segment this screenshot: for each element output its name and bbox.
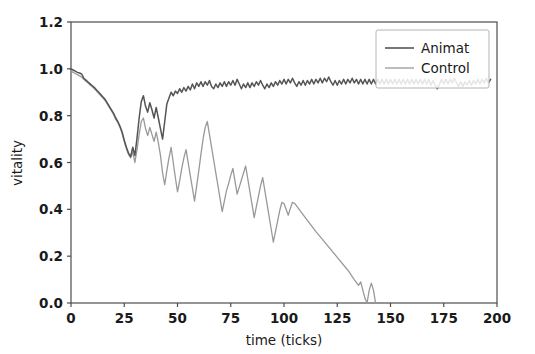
x-axis-ticks: 0255075100125150175200 xyxy=(66,303,511,326)
x-tick-label: 75 xyxy=(221,310,240,326)
y-tick-label: 0.8 xyxy=(39,108,63,124)
y-tick-label: 0.0 xyxy=(39,295,63,311)
x-tick-label: 175 xyxy=(430,310,458,326)
x-tick-label: 25 xyxy=(115,310,134,326)
legend-label-control: Control xyxy=(421,60,470,76)
y-tick-label: 0.4 xyxy=(39,201,63,217)
chart-legend[interactable]: AnimatControl xyxy=(376,30,489,88)
x-tick-label: 100 xyxy=(270,310,298,326)
chart-figure: 0.00.20.40.60.81.01.2 025507510012515017… xyxy=(0,0,535,354)
y-tick-label: 1.2 xyxy=(39,14,63,30)
x-tick-label: 50 xyxy=(168,310,187,326)
vitality-line-chart: 0.00.20.40.60.81.01.2 025507510012515017… xyxy=(0,0,535,354)
x-tick-label: 0 xyxy=(66,310,75,326)
y-tick-label: 1.0 xyxy=(39,61,63,77)
x-tick-label: 125 xyxy=(323,310,351,326)
y-tick-label: 0.6 xyxy=(39,155,63,171)
y-tick-label: 0.2 xyxy=(39,248,63,264)
x-tick-label: 150 xyxy=(376,310,404,326)
y-axis-ticks: 0.00.20.40.60.81.01.2 xyxy=(39,14,71,311)
x-tick-label: 200 xyxy=(483,310,511,326)
y-axis-title: vitality xyxy=(9,140,25,186)
x-axis-title: time (ticks) xyxy=(246,332,323,348)
legend-label-animat: Animat xyxy=(421,40,469,56)
